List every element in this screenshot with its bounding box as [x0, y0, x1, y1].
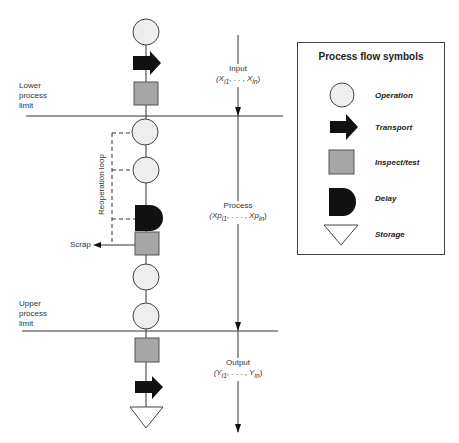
axis-arrowhead-process: [235, 322, 241, 331]
operation-symbol: [133, 264, 159, 290]
upper-limit-label: Upper process limit: [19, 299, 47, 329]
axis-arrowhead-output: [235, 424, 241, 433]
legend-label-storage: Storage: [375, 230, 405, 239]
inspect-symbol: [134, 82, 158, 105]
operation-symbol: [132, 119, 158, 145]
transport-symbol: [135, 376, 163, 399]
legend-label-transport: Transport: [375, 123, 412, 132]
axis-arrowhead-input: [235, 107, 241, 116]
scrap-label: Scrap: [70, 240, 91, 250]
lower-limit-label: Lower process limit: [19, 81, 47, 111]
legend-box: Process flow symbols Operation Transport…: [297, 42, 445, 255]
legend-label-inspect: Inspect/test: [375, 158, 419, 167]
transport-symbol: [133, 51, 161, 75]
operation-symbol: [133, 19, 159, 45]
storage-symbol: [130, 407, 163, 428]
output-label: Output (Yi1, . . . , Yin): [206, 358, 270, 381]
reoperation-loop-label: Reoperation loop: [97, 150, 106, 220]
process-label: Process (Xpi1, . . . , Xpin): [204, 201, 272, 224]
operation-symbol: [133, 157, 159, 183]
inspect-symbol: [135, 338, 159, 362]
legend-label-operation: Operation: [375, 91, 413, 100]
delay-symbol: [135, 205, 163, 231]
reoperation-loop: [112, 133, 135, 245]
input-label: Input (Xi1, . . , Xin): [208, 64, 268, 87]
legend-label-delay: Delay: [375, 194, 396, 203]
inspect-symbol: [135, 232, 159, 255]
operation-symbol: [133, 303, 159, 329]
legend-title: Process flow symbols: [298, 51, 444, 62]
scrap-arrowhead: [93, 242, 101, 248]
